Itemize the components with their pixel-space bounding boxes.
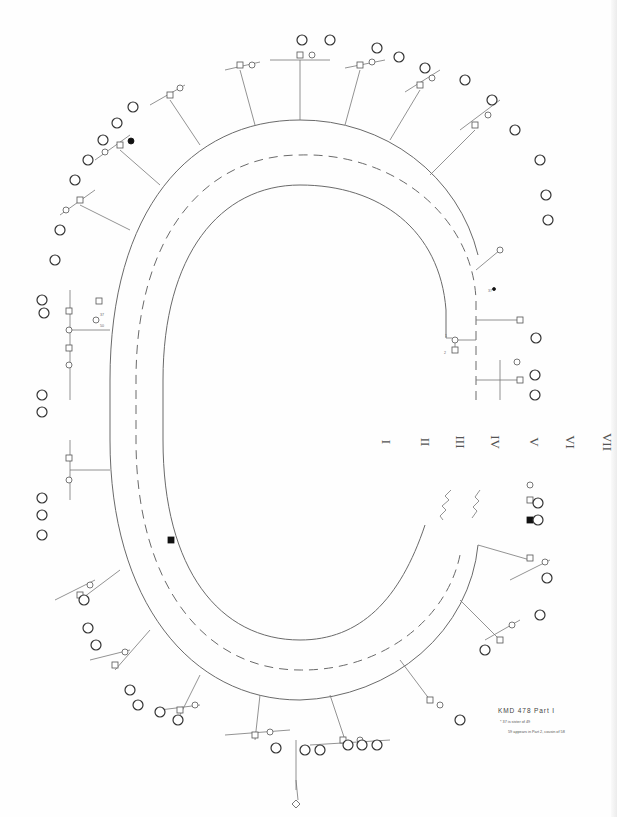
outer-ring	[110, 120, 478, 700]
id-labels: 37 50 1 2 37	[100, 289, 492, 355]
legend: KMD 478 Part I * 37 is sister of 49 59 a…	[498, 707, 613, 740]
founder-couple	[452, 337, 458, 353]
generation-label: VII	[600, 433, 615, 451]
generation-rings	[110, 120, 480, 700]
zigzag-break-outer	[472, 490, 480, 518]
svg-text:37: 37	[488, 289, 492, 293]
generation-label: I	[379, 440, 394, 444]
generation-label: II	[418, 438, 433, 447]
dashed-ring	[136, 155, 476, 670]
affected-male-symbol	[168, 537, 174, 543]
document-title: KMD 478 Part I	[498, 707, 613, 714]
pedigree-page: I II III IV V VI VII 37 50 1 2 37 KMD 47…	[0, 0, 617, 817]
affected-male-symbol	[527, 517, 533, 523]
individual-symbols	[63, 52, 548, 808]
affected-female-symbol	[128, 138, 134, 144]
generation-labels: I II III IV V VI VII	[379, 433, 615, 451]
generation-label: IV	[488, 435, 503, 449]
founder-female-symbol	[452, 337, 458, 343]
svg-text:50: 50	[100, 324, 104, 328]
affected-marker	[493, 288, 496, 291]
generation-label: III	[453, 436, 468, 449]
unknown-sex-symbol	[292, 800, 300, 808]
legend-note: 59 appears in Part 2, cousin of 58	[508, 730, 613, 734]
inner-ring	[163, 185, 446, 640]
svg-text:1: 1	[445, 334, 447, 338]
zigzag-break-inner	[440, 490, 451, 520]
svg-text:37: 37	[100, 313, 104, 317]
svg-text:2: 2	[444, 351, 446, 355]
pedigree-diagram: I II III IV V VI VII 37 50 1 2 37	[0, 0, 617, 817]
generation-label: VI	[563, 435, 578, 449]
legend-note: * 37 is sister of 49	[500, 720, 613, 724]
founder-link	[446, 338, 476, 340]
generation-label: V	[527, 437, 542, 447]
founder-male-symbol	[452, 347, 458, 353]
